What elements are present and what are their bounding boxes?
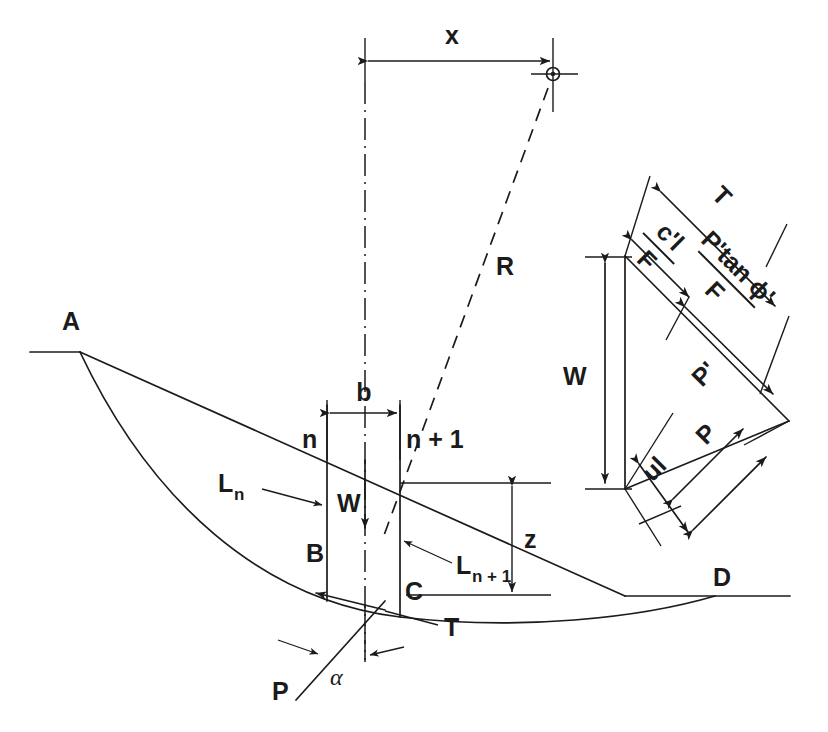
radius-label: R [496, 252, 514, 280]
ul-label: ul [636, 451, 672, 487]
weight-label: W [337, 489, 361, 517]
point-b-label: B [306, 539, 324, 567]
z-dimension-label: z [524, 525, 537, 553]
base-force-group: T α [278, 593, 459, 700]
force-polygon-inset: W T c'l F P'tan ϕ' F [563, 176, 789, 546]
cohesion-fraction: c'l F [622, 211, 696, 285]
t-dim-extension-end [760, 316, 789, 394]
interslice-right-label: L [456, 551, 471, 579]
friction-dim-extension-end [766, 224, 787, 267]
interslice-left-subscript: n [234, 485, 244, 504]
figure-root: x R A B C D P [0, 0, 828, 732]
alpha-arrow-right [370, 647, 404, 655]
x-dimension-group: x [365, 21, 553, 112]
interslice-right-leader [404, 541, 452, 563]
shear-force-leader [385, 611, 438, 625]
alpha-label: α [330, 664, 343, 690]
p-prime-extension-end [744, 421, 789, 445]
centre-of-rotation-marker [531, 68, 578, 81]
slice-boundaries-group: n n + 1 [302, 405, 464, 617]
interslice-right-subscript: n + 1 [472, 567, 511, 586]
radius-line [383, 88, 548, 538]
slip-surface-arc [80, 352, 715, 623]
p-total-label: P [690, 418, 722, 450]
slice-label-n: n [302, 425, 317, 453]
friction-dim-extension-start [666, 297, 689, 340]
point-p-label: P [272, 677, 289, 705]
radius-group: R [383, 88, 548, 538]
point-c-label: C [405, 577, 423, 605]
p-prime-label: P' [686, 356, 722, 392]
alpha-arrow-left [278, 640, 318, 654]
point-d-label: D [713, 563, 731, 591]
shear-force-label: T [444, 613, 459, 641]
b-dimension-group: b [327, 378, 400, 460]
interslice-left-group: L n [218, 469, 322, 505]
x-dimension-label: x [445, 21, 459, 49]
centre-circle-inner [551, 72, 556, 77]
interslice-left-label: L [218, 469, 233, 497]
b-dimension-label: b [356, 378, 371, 406]
weight-arrow-group: W [337, 460, 365, 528]
slice-label-n-plus-1: n + 1 [406, 425, 464, 453]
interslice-left-leader [262, 489, 322, 505]
slope-stability-diagram: x R A B C D P [0, 0, 828, 732]
inset-weight-label: W [563, 362, 587, 390]
friction-fraction: P'tan ϕ' F [673, 225, 781, 333]
slope-face-line [80, 352, 625, 596]
t-dimension-label: T [707, 180, 738, 211]
point-a-label: A [62, 307, 80, 335]
t-dim-extension-start [625, 176, 650, 256]
ground-surface-group [30, 352, 790, 596]
